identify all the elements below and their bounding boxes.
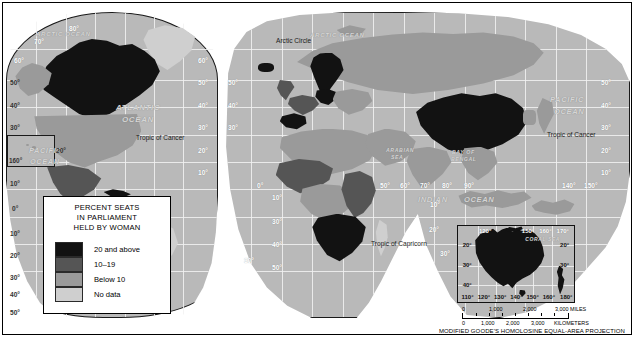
lat-tick-left-0: 0° [12,206,18,213]
lat-tick-left-10: 10° [10,181,20,188]
lat-tick-left-40: 40° [10,103,20,110]
arabian-sea-label: ARABIAN [386,148,414,153]
bay-of-bengal-label: BAY OF [452,150,475,155]
lat-tick-er-50: 50° [601,80,611,87]
lat-tick-w-20: 20° [198,148,208,155]
lat-tick-w-40: 40° [198,103,208,110]
aus-lat-30-left: 30° [463,262,472,268]
scale-miles-labels: 0 1,000 2,000 3,000 MILES [462,306,582,313]
scale-miles-1000: 1,000 [489,306,503,312]
legend-title-line-1: PERCENT SEATS [44,203,170,213]
lat-tick-left-30s: 30° [10,275,20,282]
lat-tick-hawaii-20: 20° [56,148,66,155]
lat-tick-left-50: 50° [10,80,20,87]
lat-tick-ind-20: 20° [429,227,439,234]
lat-tick-e-30: 30° [228,125,238,132]
lat-tick-er-40: 40° [601,103,611,110]
lon-tick-0: 0° [257,183,263,190]
region-madagascar [375,220,389,256]
legend-entry-20-and-above: 20 and above [55,242,170,257]
scale-bar [462,313,569,319]
arctic-ocean-label-east: ARCTIC OCEAN [310,32,365,38]
lat-tick-left-10s: 10° [10,231,20,238]
scale-km-unit: KILOMETERS [554,320,589,326]
legend-title-line-3: HELD BY WOMAN [44,223,170,233]
lat-tick-ind-10: 10° [430,202,440,209]
lat-tick-left-40s: 40° [10,292,20,299]
bay-of-bengal-label-2: BENGAL [451,157,477,162]
legend-label-10-19: 10–19 [94,260,115,269]
aus-lon-120-bot: 120° [478,294,490,300]
lat-tick-e-40: 40° [228,103,238,110]
legend-swatch-20-and-above [55,242,83,257]
lat-tick-arc-70: 70° [34,39,44,46]
aus-lat-40-left: 40° [463,282,472,288]
region-spain [280,113,308,131]
legend-swatch-no-data [55,287,83,302]
legend-entry-10-19: 10–19 [55,257,170,272]
lat-tick-e-30s: 40° [272,242,282,249]
tropic-of-cancer-label-west: Tropic of Cancer [136,135,185,142]
aus-lon-120-top: 120° [479,228,491,234]
lon-tick-60: 60° [400,183,410,190]
legend-entry-no-data: No data [55,287,170,302]
map-legend: PERCENT SEATS IN PARLIAMENT HELD BY WOMA… [43,196,171,314]
lat-tick-e-20s: 30° [244,258,254,265]
arctic-circle-label: Arctic Circle [276,38,311,45]
hawaii-inset-lon-label: 160° [9,158,22,164]
lat-tick-er-10: 10° [601,170,611,177]
projection-note: MODIFIED GOODE'S HOMOLOSINE EQUAL-AREA P… [432,328,632,334]
scale-miles-unit: MILES [570,306,586,312]
legend-label-20-and-above: 20 and above [94,245,140,254]
australia-inset-map: 120° 150° 160° 170° CORAL SEA 20° 30° 40… [457,225,575,303]
lat-tick-arc-80: 80° [69,26,79,33]
lon-tick-140: 140° [562,183,576,190]
region-new-guinea [532,198,577,216]
scale-miles-0: 0 [462,306,465,312]
aus-lon-130-bot: 130° [494,294,506,300]
aus-lon-180-bot: 180° [560,294,572,300]
scale-miles-3000: 3,000 [555,306,569,312]
pacific-ocean-label-west-2: OCEAN [30,158,60,165]
region-korea [523,110,535,125]
lat-tick-e-50: 50° [228,80,238,87]
legend-label-below-10: Below 10 [94,275,125,284]
region-eastern-europe [333,89,374,116]
tropic-of-capricorn-label: Tropic of Capricorn [371,241,427,248]
pacific-ocean-label-east-2: OCEAN [554,108,584,116]
region-east-africa [341,171,378,220]
map-scale: 0 1,000 2,000 3,000 MILES 0 1,000 2,000 … [462,306,582,327]
lat-tick-er-30: 30° [601,125,611,132]
lon-tick-70: 70° [420,183,430,190]
lat-tick-left-20s: 20° [10,253,20,260]
lat-tick-er-20: 20° [601,148,611,155]
lat-tick-left-30: 30° [10,125,20,132]
arctic-ocean-label-west: ARCTIC OCEAN [36,31,91,37]
aus-lon-160-top: 160° [539,228,551,234]
lat-tick-e-20s2: 30° [272,219,282,226]
legend-label-no-data: No data [94,290,121,299]
scale-km-0: 0 [462,320,465,326]
legend-title-line-2: IN PARLIAMENT [44,213,170,223]
atlantic-ocean-label-2: OCEAN [122,116,154,124]
atlantic-ocean-label: ATLANTIC [116,104,160,112]
lat-tick-left-50s: 50° [10,310,20,317]
aus-lon-160-bot: 160° [543,294,555,300]
coral-sea-label: CORAL SEA [525,237,560,242]
scale-km-1000: 1,000 [481,320,495,326]
lat-tick-arc-60: 60° [14,58,24,65]
lon-tick-80: 80° [442,183,452,190]
legend-entries: 20 and above 10–19 Below 10 No data [55,242,170,302]
region-southern-africa [312,214,369,266]
lat-tick-ind-30: 30° [440,251,450,258]
lon-tick-50: 50° [380,183,390,190]
aus-lat-30-right: 30° [560,262,569,268]
arabian-sea-label-2: SEA [391,155,403,160]
lat-tick-e-10s: 10° [272,195,282,202]
aus-lat-20-left: 20° [463,242,472,248]
aus-lon-150-top: 150° [522,228,534,234]
region-new-zealand [555,266,565,295]
legend-swatch-below-10 [55,272,83,287]
scale-km-3000: 3,000 [531,320,545,326]
scale-km-labels: 0 1,000 2,000 3,000 KILOMETERS [462,320,582,327]
